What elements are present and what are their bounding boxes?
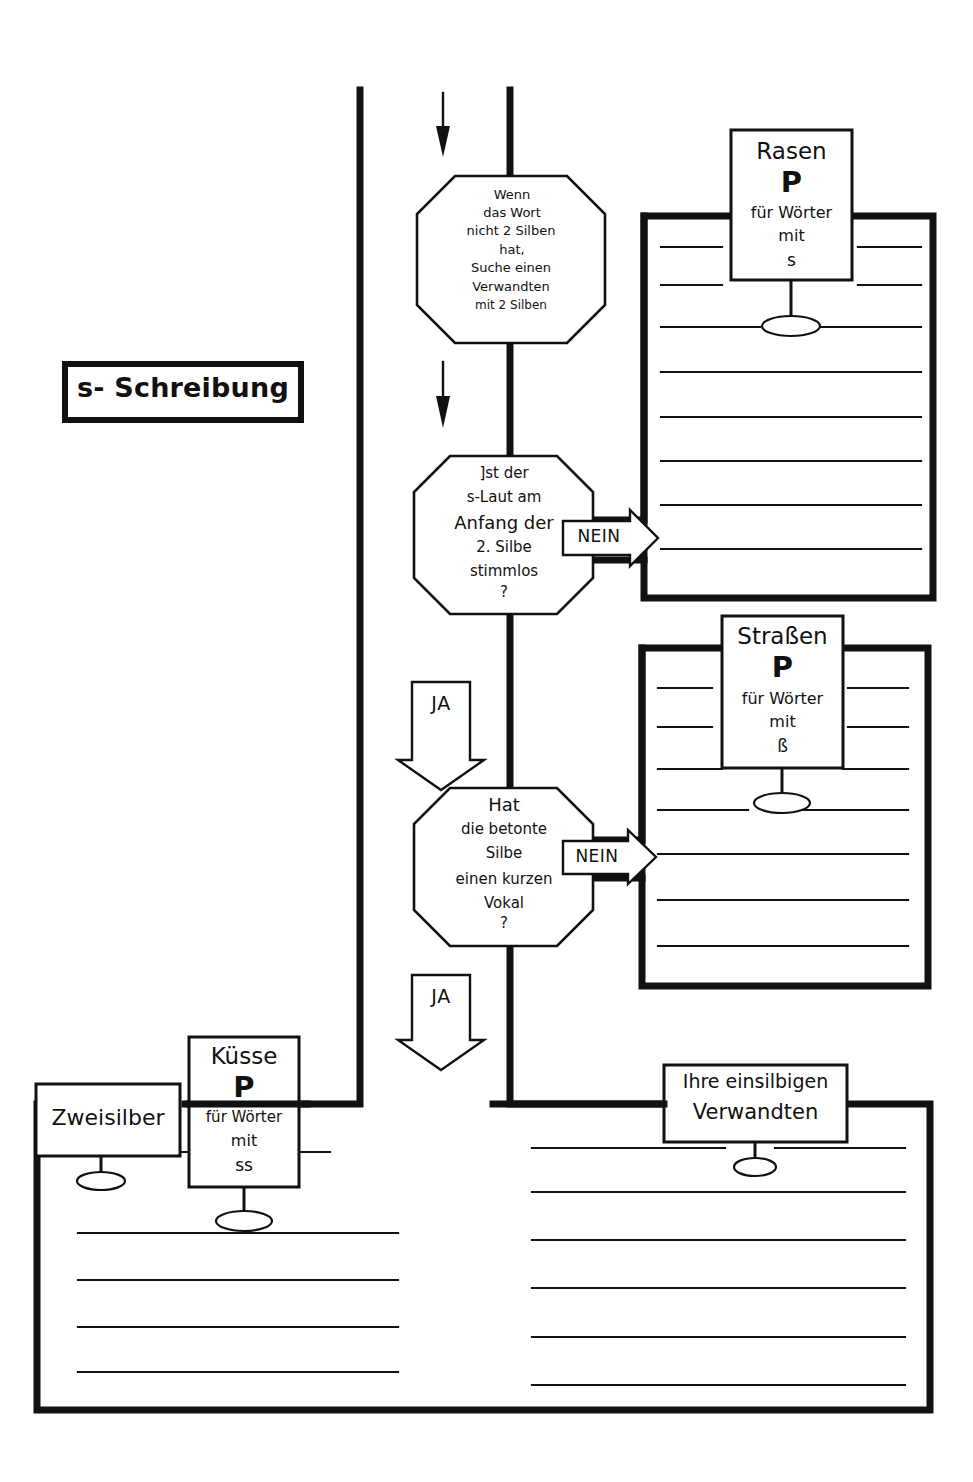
decision-3-line-2: die betonte [406, 822, 602, 838]
decision-1-line-7: mit 2 Silben [409, 299, 613, 312]
decision-1-line-5: Suche einen [409, 261, 613, 275]
strassen-card-sub-1: für Wörter [717, 691, 848, 708]
flag-ja-1: JA [412, 694, 470, 714]
einsilbige-label-line-1: Ihre einsilbigen [664, 1072, 847, 1092]
strassen-card-symbol: P [722, 652, 843, 682]
rasen-card-value: s [731, 252, 852, 270]
decision-1-line-4: hat, [417, 243, 607, 257]
rasen-card-sub-1: für Wörter [726, 205, 857, 222]
flag-nein-1: NEIN [568, 528, 630, 546]
decision-3-line-4: einen kurzen [404, 872, 604, 888]
decision-2-line-5: stimmlos [414, 564, 594, 580]
decision-3-line-6: ? [414, 916, 594, 932]
zweisilber-label: Zweisilber [36, 1106, 180, 1129]
decision-2-line-6: ? [414, 585, 594, 601]
kuesse-card-symbol: P [189, 1072, 299, 1102]
kuesse-card-head: Küsse [189, 1044, 299, 1068]
kuesse-card-value: ss [189, 1157, 299, 1175]
zweisilber-shape [36, 1084, 180, 1190]
decision-2-line-4: 2. Silbe [414, 540, 594, 556]
decision-3-line-1: Hat [414, 796, 594, 815]
rasen-card-head: Rasen [731, 139, 852, 163]
decision-1-line-2: das Wort [417, 206, 607, 220]
arrow-down-2 [436, 362, 450, 428]
flow-left-rail [189, 90, 360, 1104]
decision-2-line-1: ]st der [414, 466, 594, 482]
strassen-card-value: ß [722, 738, 843, 756]
worksheet-canvas: s- Schreibung Wenn das Wort nicht 2 Silb… [0, 0, 973, 1482]
page-title: s- Schreibung [62, 374, 304, 402]
flag-ja-2: JA [412, 987, 470, 1007]
rasen-card-sub-2: mit [731, 228, 852, 245]
decision-3-line-5: Vokal [414, 896, 594, 912]
strassen-card-sub-2: mit [722, 714, 843, 731]
strassen-card-head: Straßen [720, 624, 845, 648]
kuesse-card-sub-2: mit [189, 1133, 299, 1150]
kuesse-card-sub-1: für Wörter [184, 1110, 304, 1126]
decision-2-line-2: s-Laut am [414, 490, 594, 506]
einsilbige-label-line-2: Verwandten [664, 1101, 847, 1123]
flag-nein-2: NEIN [566, 848, 628, 866]
rasen-card-symbol: P [731, 167, 852, 197]
decision-1-line-6: Verwandten [409, 280, 613, 294]
decision-1-line-1: Wenn [417, 188, 607, 202]
arrow-down-1 [436, 93, 450, 157]
decision-1-line-3: nicht 2 Silben [409, 224, 613, 238]
